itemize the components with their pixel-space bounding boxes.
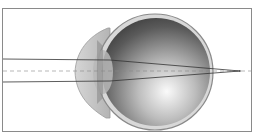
eye-hyperopia-diagram: [0, 0, 257, 138]
iris: [97, 40, 103, 104]
focal-point: [239, 70, 241, 72]
eye-interior: [102, 18, 210, 126]
